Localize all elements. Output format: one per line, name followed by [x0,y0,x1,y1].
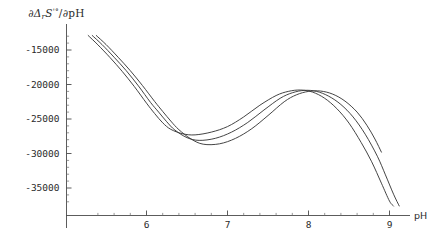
y-tick-label: -20000 [25,79,60,90]
x-axis-title: pH [414,210,427,221]
y-tick-label: -35000 [25,182,60,193]
x-tick-label: 8 [306,219,312,230]
plot-area: 6789 -15000-20000-25000-30000-35000 pH [0,0,435,248]
y-tick-label: -25000 [25,113,60,124]
chart-curve [92,36,399,206]
y-tick-label: -30000 [25,148,60,159]
axes-group [66,24,410,228]
chart-curve [96,36,381,153]
x-tick-labels-group: 6789 [144,219,393,230]
y-ticks-group [67,36,72,202]
curves-group [88,36,399,206]
chart-curve [88,36,393,206]
x-tick-label: 7 [225,219,231,230]
x-ticks-group [98,211,390,216]
x-tick-label: 6 [144,219,150,230]
y-tick-labels-group: -15000-20000-25000-30000-35000 [25,44,60,193]
chart-figure: ∂ΔrS'°/∂pH 6789 -15000-20000-25000-30000… [0,0,435,248]
y-tick-label: -15000 [25,44,60,55]
x-tick-label: 9 [387,219,393,230]
